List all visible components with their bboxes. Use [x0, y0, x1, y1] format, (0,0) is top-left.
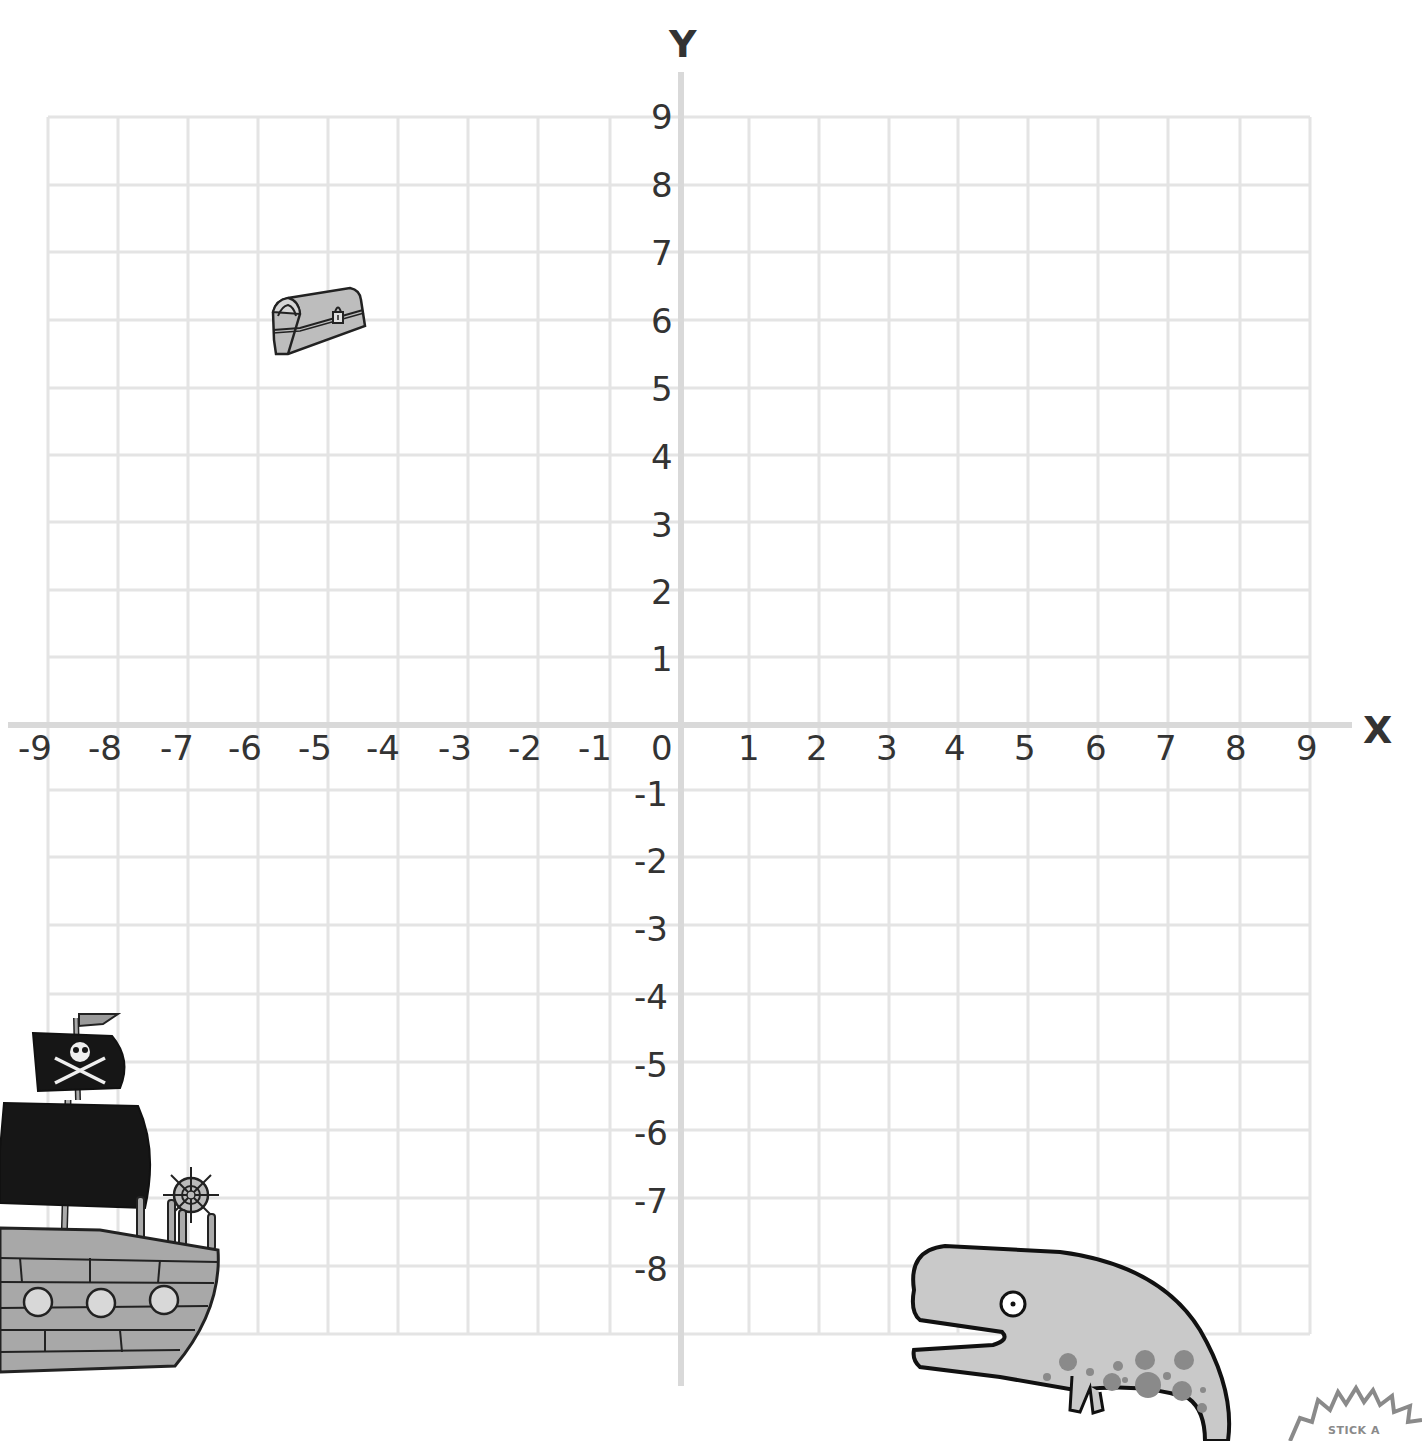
y-tick-label: 5: [651, 372, 673, 406]
whale-icon: [913, 1246, 1229, 1441]
x-tick-label: 1: [738, 731, 760, 765]
x-tick-label: 9: [1296, 731, 1318, 765]
x-tick-label: 8: [1225, 731, 1247, 765]
x-axis-title: X: [1363, 708, 1392, 752]
y-tick-label: -8: [634, 1252, 668, 1286]
y-tick-label: -7: [634, 1184, 668, 1218]
treasure-chest-icon: [273, 288, 365, 354]
x-tick-label: -7: [160, 731, 194, 765]
y-tick-label: -2: [634, 844, 668, 878]
y-tick-label: -5: [634, 1048, 668, 1082]
sticker-text: STICK A: [1328, 1424, 1380, 1437]
pirate-ship-icon: [0, 1014, 219, 1372]
x-tick-label: -9: [18, 731, 52, 765]
x-tick-label: 2: [806, 731, 828, 765]
y-axis-title: Y: [669, 22, 697, 66]
x-tick-label: -3: [438, 731, 472, 765]
x-tick-label: -5: [298, 731, 332, 765]
x-tick-label: -2: [508, 731, 542, 765]
x-tick-label: 4: [944, 731, 966, 765]
x-tick-label: -1: [578, 731, 612, 765]
x-tick-label: 0: [651, 731, 673, 765]
y-tick-label: -6: [634, 1116, 668, 1150]
y-tick-label: 6: [651, 304, 673, 338]
y-tick-label: 9: [651, 100, 673, 134]
y-tick-label: -4: [634, 980, 668, 1014]
x-tick-label: 7: [1155, 731, 1177, 765]
x-tick-label: 3: [876, 731, 898, 765]
y-tick-label: 3: [651, 508, 673, 542]
y-tick-label: -3: [634, 912, 668, 946]
x-tick-label: -4: [366, 731, 400, 765]
coordinate-grid-worksheet: Y X -9-8-7-6-5-4-3-2-1012345678998765432…: [0, 0, 1422, 1441]
y-tick-label: 2: [651, 575, 673, 609]
y-tick-label: 7: [651, 236, 673, 270]
x-tick-label: -8: [88, 731, 122, 765]
x-tick-label: 6: [1085, 731, 1107, 765]
y-tick-label: -1: [634, 777, 668, 811]
y-tick-label: 4: [651, 440, 673, 474]
y-tick-label: 8: [651, 168, 673, 202]
x-tick-label: 5: [1014, 731, 1036, 765]
y-tick-label: 1: [651, 642, 673, 676]
coordinate-grid: [0, 0, 1422, 1441]
x-tick-label: -6: [228, 731, 262, 765]
